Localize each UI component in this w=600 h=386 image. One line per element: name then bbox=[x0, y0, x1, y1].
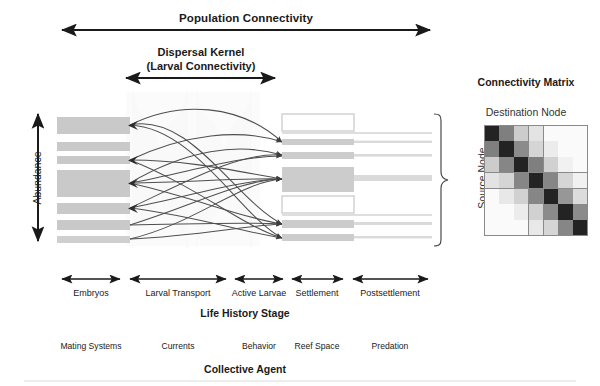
right-bar-tail bbox=[282, 132, 432, 134]
matrix-cell-r7-c1 bbox=[485, 220, 499, 235]
right-bar bbox=[282, 234, 354, 241]
matrix-cell-r6-c6 bbox=[558, 204, 572, 219]
left-bar bbox=[57, 170, 130, 197]
background-watermark bbox=[126, 88, 260, 250]
right-bar-tail bbox=[354, 141, 432, 143]
matrix-cell-r4-c4 bbox=[529, 173, 543, 188]
abundance-axis-label: Abundance bbox=[31, 123, 43, 233]
matrix-cell-r5-c3 bbox=[514, 189, 528, 204]
right-bar-tail bbox=[282, 214, 432, 216]
matrix-cell-r3-c1 bbox=[485, 157, 499, 172]
connectivity-matrix-title: Connectivity Matrix bbox=[452, 76, 600, 88]
matrix-cell-r3-c7 bbox=[573, 157, 587, 172]
left-bar bbox=[57, 142, 130, 151]
matrix-cell-r2-c6 bbox=[558, 141, 572, 156]
matrix-cell-r2-c2 bbox=[499, 141, 513, 156]
right-settlement-bars bbox=[282, 114, 432, 241]
matrix-cell-r7-c3 bbox=[514, 220, 528, 235]
matrix-cell-r3-c6 bbox=[558, 157, 572, 172]
left-bar bbox=[57, 117, 130, 134]
matrix-cell-r4-c3 bbox=[514, 173, 528, 188]
matrix-cell-r2-c4 bbox=[529, 141, 543, 156]
matrix-cell-r5-c4 bbox=[529, 189, 543, 204]
matrix-cell-r3-c3 bbox=[514, 157, 528, 172]
matrix-cell-r7-c6 bbox=[558, 220, 572, 235]
agent-label-predation: Predation bbox=[340, 341, 440, 351]
dispersal-kernel-label: Dispersal Kernel bbox=[70, 46, 332, 58]
matrix-cell-r2-c7 bbox=[573, 141, 587, 156]
matrix-cell-r3-c5 bbox=[544, 157, 558, 172]
right-bar-outlined bbox=[282, 114, 354, 131]
right-bar-tail bbox=[354, 154, 432, 157]
matrix-cell-r4-c2 bbox=[499, 173, 513, 188]
matrix-cell-r1-c7 bbox=[573, 126, 587, 141]
right-bar-tail bbox=[354, 236, 432, 238]
matrix-cell-r2-c5 bbox=[544, 141, 558, 156]
matrix-cell-r6-c4 bbox=[529, 204, 543, 219]
matrix-cell-r2-c3 bbox=[514, 141, 528, 156]
matrix-cell-r1-c1 bbox=[485, 126, 499, 141]
source-node-brace bbox=[434, 114, 448, 246]
destination-node-label: Destination Node bbox=[452, 106, 600, 118]
matrix-cell-r6-c2 bbox=[499, 204, 513, 219]
matrix-cell-r1-c3 bbox=[514, 126, 528, 141]
right-bar bbox=[282, 167, 354, 192]
matrix-cell-r1-c2 bbox=[499, 126, 513, 141]
right-bar bbox=[282, 139, 354, 145]
matrix-cell-r7-c7 bbox=[573, 220, 587, 235]
matrix-cell-r1-c6 bbox=[558, 126, 572, 141]
matrix-cell-r4-c7 bbox=[573, 173, 587, 188]
stage-label-embryos: Embryos bbox=[41, 288, 141, 298]
matrix-cell-r6-c3 bbox=[514, 204, 528, 219]
left-abundance-bars bbox=[57, 117, 130, 243]
matrix-cell-r5-c2 bbox=[499, 189, 513, 204]
matrix-cell-r1-c4 bbox=[529, 126, 543, 141]
connectivity-matrix-grid bbox=[484, 125, 588, 236]
matrix-cell-r6-c1 bbox=[485, 204, 499, 219]
right-bar bbox=[282, 152, 354, 159]
diagram-canvas: Population Connectivity Dispersal Kernel… bbox=[0, 0, 600, 386]
matrix-cell-r3-c4 bbox=[529, 157, 543, 172]
matrix-cell-r6-c7 bbox=[573, 204, 587, 219]
matrix-cell-r5-c5 bbox=[544, 189, 558, 204]
matrix-cell-r1-c5 bbox=[544, 126, 558, 141]
right-bar-tail bbox=[354, 175, 432, 181]
life-history-stage-title: Life History Stage bbox=[55, 307, 435, 319]
right-bar-tail bbox=[354, 222, 432, 225]
matrix-cell-r7-c2 bbox=[499, 220, 513, 235]
matrix-cell-r5-c7 bbox=[573, 189, 587, 204]
agent-label-mating-systems: Mating Systems bbox=[41, 341, 141, 351]
collective-agent-title: Collective Agent bbox=[55, 363, 435, 375]
matrix-cell-r5-c1 bbox=[485, 189, 499, 204]
matrix-cell-r4-c6 bbox=[558, 173, 572, 188]
left-bar bbox=[57, 156, 130, 164]
matrix-cell-r3-c2 bbox=[499, 157, 513, 172]
matrix-cell-r5-c6 bbox=[558, 189, 572, 204]
population-connectivity-label: Population Connectivity bbox=[0, 12, 492, 24]
right-bar bbox=[282, 220, 354, 228]
stage-label-postsettlement: Postsettlement bbox=[340, 288, 440, 298]
matrix-cell-r6-c5 bbox=[544, 204, 558, 219]
left-bar bbox=[57, 203, 130, 214]
larval-connectivity-label: (Larval Connectivity) bbox=[70, 60, 332, 72]
left-bar bbox=[57, 220, 130, 230]
matrix-cell-r2-c1 bbox=[485, 141, 499, 156]
matrix-cell-r7-c5 bbox=[544, 220, 558, 235]
right-bar-outlined bbox=[282, 196, 354, 213]
matrix-cell-r4-c5 bbox=[544, 173, 558, 188]
matrix-cell-r7-c4 bbox=[529, 220, 543, 235]
matrix-cell-r4-c1 bbox=[485, 173, 499, 188]
left-bar bbox=[57, 236, 130, 243]
